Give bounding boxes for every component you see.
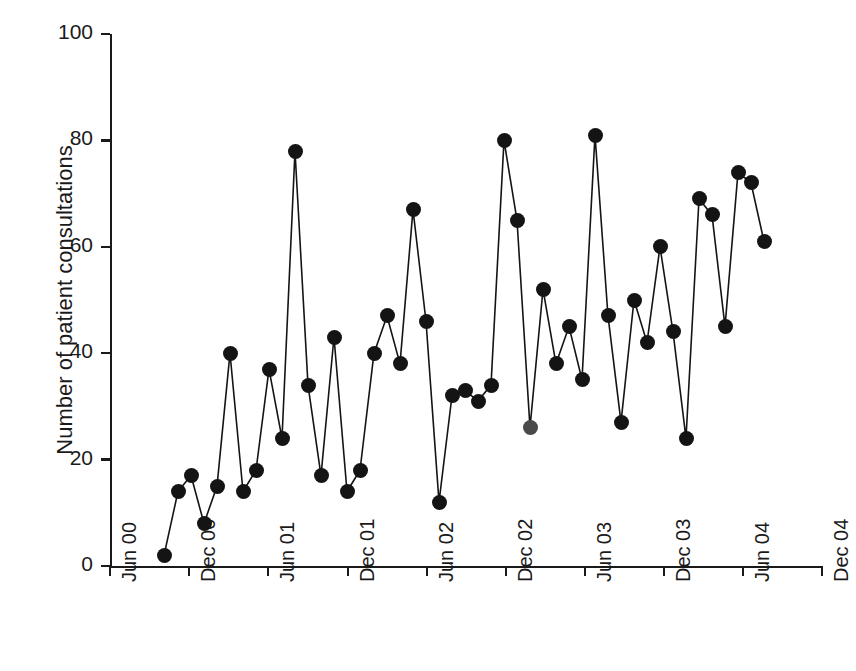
- y-tick-mark: [101, 246, 110, 248]
- data-point-marker: [197, 516, 212, 531]
- x-tick-mark: [663, 566, 665, 576]
- data-point-marker: [601, 308, 616, 323]
- data-point-marker: [262, 362, 277, 377]
- data-point-marker: [393, 356, 408, 371]
- y-axis-line: [110, 34, 112, 566]
- y-tick-label: 40: [70, 339, 93, 363]
- x-tick-label: Jun 03: [593, 522, 616, 582]
- data-point-marker: [497, 133, 512, 148]
- data-point-marker: [705, 207, 720, 222]
- data-point-marker: [627, 293, 642, 308]
- x-tick-mark: [426, 566, 428, 576]
- data-point-marker: [588, 128, 603, 143]
- data-point-marker: [249, 463, 264, 478]
- data-point-marker: [744, 175, 759, 190]
- data-point-marker: [757, 234, 772, 249]
- data-point-marker: [184, 468, 199, 483]
- x-tick-mark: [188, 566, 190, 576]
- x-tick-label: Jun 04: [751, 522, 774, 582]
- data-point-marker: [523, 420, 538, 435]
- y-tick-mark: [101, 139, 110, 141]
- data-point-marker: [301, 378, 316, 393]
- x-tick-label: Jun 01: [276, 522, 299, 582]
- data-point-marker: [210, 479, 225, 494]
- x-tick-mark: [505, 566, 507, 576]
- x-tick-label: Dec 03: [672, 519, 695, 582]
- data-point-marker: [288, 144, 303, 159]
- data-point-marker: [406, 202, 421, 217]
- data-point-marker: [679, 431, 694, 446]
- y-tick-mark: [101, 33, 110, 35]
- data-point-marker: [731, 165, 746, 180]
- data-point-marker: [549, 356, 564, 371]
- data-point-marker: [419, 314, 434, 329]
- x-tick-mark: [584, 566, 586, 576]
- x-tick-label: Jun 02: [435, 522, 458, 582]
- y-tick-label: 60: [70, 233, 93, 257]
- data-point-marker: [171, 484, 186, 499]
- data-point-marker: [575, 372, 590, 387]
- data-point-marker: [666, 324, 681, 339]
- x-tick-label: Dec 02: [514, 519, 537, 582]
- y-tick-label: 0: [81, 552, 93, 576]
- data-point-marker: [536, 282, 551, 297]
- data-point-marker: [653, 239, 668, 254]
- x-tick-mark: [109, 566, 111, 576]
- data-point-marker: [223, 346, 238, 361]
- data-point-marker: [340, 484, 355, 499]
- series-polyline: [164, 135, 764, 555]
- data-point-marker: [614, 415, 629, 430]
- y-tick-label: 80: [70, 126, 93, 150]
- x-tick-label: Jun 00: [118, 522, 141, 582]
- data-point-marker: [275, 431, 290, 446]
- data-point-marker: [236, 484, 251, 499]
- data-point-marker: [327, 330, 342, 345]
- x-tick-mark: [347, 566, 349, 576]
- y-axis-title: Number of patient consultations: [52, 40, 78, 560]
- data-point-marker: [471, 394, 486, 409]
- x-tick-label: Dec 04: [830, 519, 853, 582]
- data-point-marker: [157, 548, 172, 563]
- y-tick-label: 100: [58, 20, 93, 44]
- data-point-marker: [562, 319, 577, 334]
- x-tick-label: Dec 01: [356, 519, 379, 582]
- data-point-marker: [353, 463, 368, 478]
- data-point-marker: [458, 383, 473, 398]
- data-point-marker: [692, 191, 707, 206]
- data-point-marker: [380, 308, 395, 323]
- data-point-marker: [367, 346, 382, 361]
- data-point-marker: [314, 468, 329, 483]
- y-tick-mark: [101, 352, 110, 354]
- x-tick-mark: [821, 566, 823, 576]
- x-tick-mark: [267, 566, 269, 576]
- data-point-marker: [432, 495, 447, 510]
- y-tick-label: 20: [70, 446, 93, 470]
- y-tick-mark: [101, 458, 110, 460]
- data-point-marker: [718, 319, 733, 334]
- data-point-marker: [484, 378, 499, 393]
- x-tick-mark: [742, 566, 744, 576]
- chart-figure: Number of patient consultations 02040608…: [0, 0, 856, 671]
- data-point-marker: [510, 213, 525, 228]
- data-point-marker: [640, 335, 655, 350]
